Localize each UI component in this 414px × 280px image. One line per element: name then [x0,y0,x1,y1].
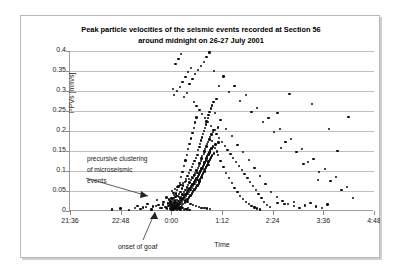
data-point [195,105,197,107]
data-point [216,150,218,152]
data-point [218,137,220,139]
data-point [193,127,195,129]
data-point [243,173,245,175]
data-point [204,117,206,119]
data-point [231,135,233,137]
data-point [211,104,213,106]
data-point [207,121,209,123]
data-point [335,176,337,178]
data-point [276,112,278,114]
data-point [231,182,233,184]
data-point [281,200,283,202]
data-point [192,163,194,165]
annotation-line-3: events [87,175,173,186]
gridline [70,151,374,152]
data-point [312,158,314,160]
data-point [202,133,204,135]
y-tick [66,111,70,112]
data-point [183,165,185,167]
gridline [70,71,374,72]
data-point [205,145,207,147]
data-point [176,186,178,188]
data-point [259,175,261,177]
data-point [186,154,188,156]
y-tick-label: 0.2 [26,126,66,133]
x-tick-label: 2:24 [253,217,293,224]
data-point [208,111,210,113]
data-point [198,146,200,148]
x-tick-label: 21:36 [50,217,90,224]
x-axis-title: Time [70,241,374,248]
data-point [180,53,182,55]
data-point [181,81,183,83]
data-point [209,208,211,210]
x-tick [374,211,375,215]
gridline [70,51,374,52]
data-point [315,205,317,207]
data-point [201,136,203,138]
data-point [179,86,181,88]
annotation-onset-of-goaf: onset of goaf [118,243,157,250]
data-point [326,203,328,205]
data-point [239,195,241,197]
data-point [219,119,221,121]
gridline [70,131,374,132]
data-point [225,172,227,174]
data-point [183,96,185,98]
data-point [346,186,348,188]
data-point [189,169,191,171]
y-tick [66,91,70,92]
data-point [238,165,240,167]
data-point [318,171,320,173]
data-point [248,159,250,161]
data-point [173,94,175,96]
data-point [191,132,193,134]
data-point [311,103,313,105]
data-point [309,202,311,204]
data-point [217,141,219,143]
data-point [242,151,244,153]
data-point [259,208,261,210]
data-point [280,147,282,149]
data-point [203,150,205,152]
data-point [159,207,161,209]
data-point [284,141,286,143]
data-point [177,58,179,60]
data-point [200,65,202,67]
annotation-line-1: precursive clustering [87,153,173,164]
data-point [199,143,201,145]
data-point [194,73,196,75]
data-point [185,180,187,182]
data-point [195,116,197,118]
data-point [193,160,195,162]
data-point [298,207,300,209]
data-point [260,197,262,199]
data-point [263,201,265,203]
y-tick-label: 0.4 [26,46,66,53]
data-point [184,76,186,78]
data-point [214,147,216,149]
data-point [267,117,269,119]
data-point [208,51,210,53]
data-point [188,83,190,85]
data-point [198,162,200,164]
y-tick-label: 0.1 [26,166,66,173]
data-point [276,202,278,204]
data-point [155,205,157,207]
x-tick-label: 0:00 [151,217,191,224]
gridline [70,191,374,192]
y-tick-label: 0.35 [26,66,66,73]
data-point [324,168,326,170]
data-point [215,98,217,100]
data-point [172,88,174,90]
data-point [200,139,202,141]
data-point [186,92,188,94]
data-point [217,154,219,156]
data-point [203,153,205,155]
data-point [288,93,290,95]
data-point [283,203,285,205]
x-tick [121,211,122,215]
data-point [214,112,216,114]
data-point [136,205,138,207]
data-point [225,128,227,130]
